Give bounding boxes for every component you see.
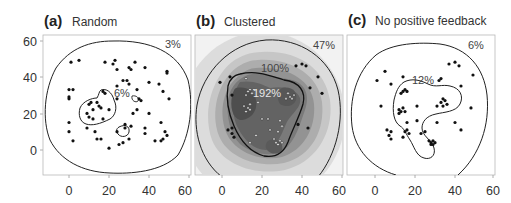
x-tick-20: 20 <box>408 184 422 198</box>
data-point <box>93 130 96 133</box>
data-point <box>111 62 114 65</box>
data-point <box>289 96 291 98</box>
data-point <box>383 70 386 73</box>
data-point <box>457 64 460 67</box>
data-point <box>67 121 70 124</box>
data-point <box>293 94 295 96</box>
panel-c-title-text: No positive feedback <box>375 14 487 28</box>
label-3pct: 3% <box>165 38 181 50</box>
x-tick-20: 20 <box>102 184 116 198</box>
data-point <box>269 129 271 131</box>
data-point <box>405 121 408 124</box>
panel-a-title-text: Random <box>72 15 117 29</box>
data-point <box>121 141 124 144</box>
data-point <box>443 99 446 102</box>
data-point <box>143 132 146 135</box>
x-tick-40: 40 <box>295 184 309 198</box>
data-point <box>267 118 269 120</box>
panel-b-heatmap <box>181 32 345 202</box>
label-100pct: 100% <box>261 62 289 74</box>
data-point <box>165 134 168 137</box>
data-point <box>157 83 160 86</box>
data-point <box>161 90 164 93</box>
data-point <box>407 132 410 135</box>
data-point <box>469 106 472 109</box>
x-tick-60: 60 <box>332 184 346 198</box>
panel-c: 6% 12% 0 20 40 60 <box>347 35 500 198</box>
data-point <box>95 101 98 104</box>
data-point <box>277 131 279 133</box>
data-point <box>143 66 146 69</box>
data-point <box>135 108 138 111</box>
x-tick-40: 40 <box>142 184 156 198</box>
data-point <box>459 84 462 87</box>
data-point <box>300 62 303 65</box>
data-point <box>91 117 94 120</box>
y-tick-40: 40 <box>23 71 37 85</box>
panel-c-letter: (c) <box>348 11 366 28</box>
label-192pct: 192% <box>253 87 281 99</box>
data-point <box>405 90 408 93</box>
data-point <box>85 112 88 115</box>
data-point <box>165 72 168 75</box>
x-tick-60: 60 <box>178 184 192 198</box>
data-point <box>441 105 444 108</box>
data-point <box>320 92 323 95</box>
data-point <box>226 128 229 131</box>
data-point <box>163 130 166 133</box>
data-point <box>415 105 418 108</box>
x-tick-20: 20 <box>255 184 269 198</box>
data-point <box>129 68 132 71</box>
data-point <box>401 136 404 139</box>
data-point <box>471 73 474 76</box>
data-point <box>275 142 277 144</box>
data-point <box>431 143 434 146</box>
label-12pct: 12% <box>412 74 434 86</box>
data-point <box>304 64 307 67</box>
data-point <box>247 107 249 109</box>
panel-c-title: (c) No positive feedback <box>348 11 487 28</box>
data-point <box>113 59 116 62</box>
data-point <box>389 137 392 140</box>
data-point <box>133 61 136 64</box>
data-point <box>67 130 70 133</box>
data-point <box>459 128 462 131</box>
data-point <box>255 134 257 136</box>
data-point <box>99 106 102 109</box>
data-point <box>281 142 283 144</box>
data-point <box>243 105 245 107</box>
data-point <box>67 88 70 91</box>
data-point <box>123 126 126 129</box>
y-tick-60: 60 <box>23 35 37 49</box>
data-point <box>401 106 404 109</box>
data-point <box>249 142 251 144</box>
panel-a-title: (a) Random <box>44 12 117 29</box>
x-tick-0: 0 <box>66 184 73 198</box>
panel-b-x-axis: 0 20 40 60 <box>219 175 346 198</box>
data-point <box>447 62 450 65</box>
data-point <box>117 143 120 146</box>
data-point <box>161 137 164 140</box>
data-point <box>245 77 247 79</box>
data-point <box>139 99 142 102</box>
data-point <box>403 110 406 113</box>
panel-b-letter: (b) <box>196 12 215 29</box>
data-point <box>257 101 259 103</box>
data-point <box>129 125 132 128</box>
data-point <box>247 90 249 92</box>
data-point <box>249 88 251 90</box>
data-point <box>439 101 442 104</box>
data-point <box>273 138 275 140</box>
data-point <box>127 83 130 86</box>
data-point <box>107 108 110 111</box>
data-point <box>67 95 70 98</box>
data-point <box>91 108 94 111</box>
data-point <box>147 81 150 84</box>
data-point <box>401 75 404 78</box>
data-point <box>85 126 88 129</box>
data-point <box>296 123 299 126</box>
data-point <box>87 116 90 119</box>
data-point <box>249 103 251 105</box>
label-6pct: 6% <box>468 39 484 51</box>
panel-b-title: (b) Clustered <box>196 12 275 29</box>
